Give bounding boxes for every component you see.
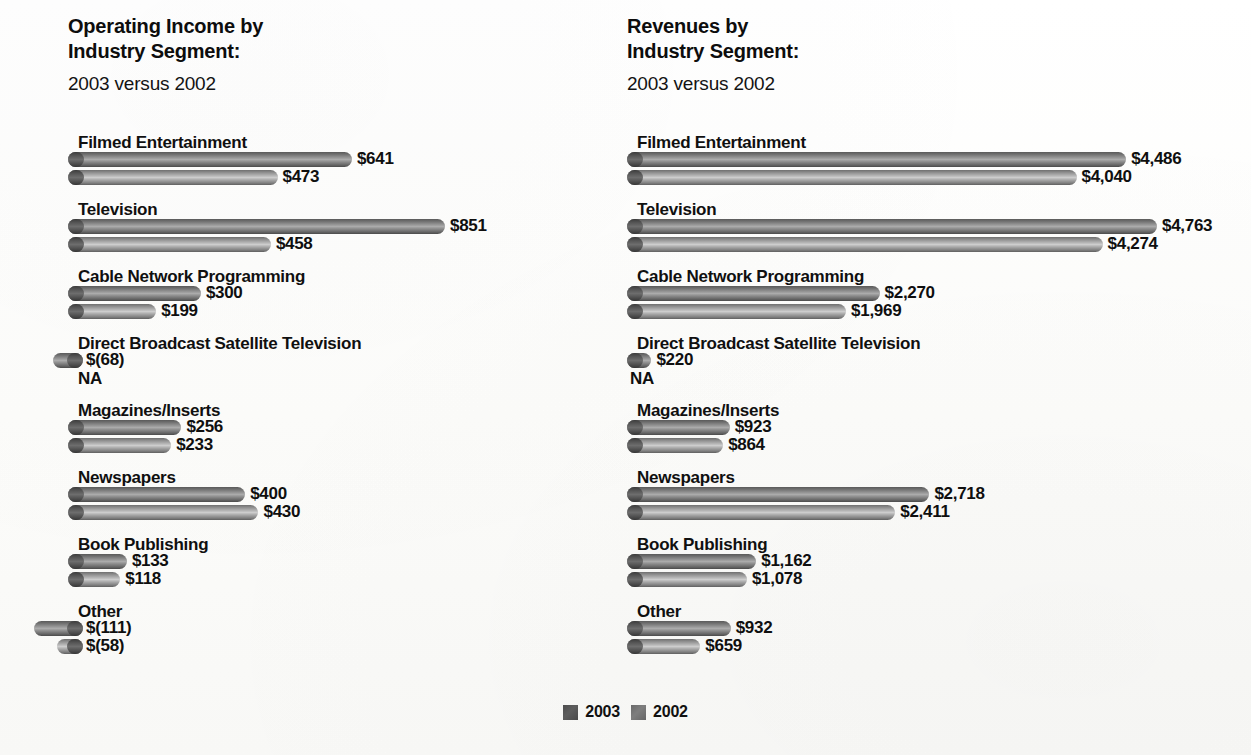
bar-value: $4,040 <box>1082 169 1132 184</box>
bar-2002[interactable] <box>627 505 895 520</box>
bar-2003[interactable] <box>68 420 181 435</box>
segment-label: Other <box>637 603 681 621</box>
segment-label: Newspapers <box>637 469 735 487</box>
bar-value: $2,718 <box>934 486 984 501</box>
bar-2002[interactable] <box>627 304 846 319</box>
bar-value: $932 <box>736 620 773 635</box>
bar-2002[interactable] <box>627 237 1103 252</box>
bar-2002[interactable] <box>627 639 700 654</box>
bar-cap <box>68 237 84 252</box>
segment-label: Television <box>637 201 716 219</box>
bar-cap <box>68 554 84 569</box>
bar-2003[interactable] <box>627 353 651 368</box>
legend-swatch-2002-icon <box>631 705 646 720</box>
legend-swatch-2003-icon <box>563 705 578 720</box>
chart-revenues: Revenues by Industry Segment: 2003 versu… <box>560 0 1251 700</box>
bar-value: $1,969 <box>851 303 901 318</box>
bar-value: $1,078 <box>752 571 802 586</box>
bar-cap <box>627 286 643 301</box>
segment-label: Cable Network Programming <box>78 268 305 286</box>
bar-2003[interactable] <box>68 219 445 234</box>
bar-2002[interactable] <box>627 438 723 453</box>
bar-value: $400 <box>250 486 287 501</box>
bar-2003[interactable] <box>627 219 1157 234</box>
bar-cap <box>627 304 643 319</box>
bar-cap <box>627 420 643 435</box>
bar-value: $199 <box>161 303 198 318</box>
chart-legend: 2003 2002 <box>0 697 1251 727</box>
bar-2003[interactable] <box>627 554 756 569</box>
bar-2003[interactable] <box>627 286 880 301</box>
bar-2002[interactable] <box>68 505 258 520</box>
bar-value: $458 <box>276 236 313 251</box>
bar-cap <box>627 219 643 234</box>
bar-2003[interactable] <box>68 286 201 301</box>
bar-cap <box>68 420 84 435</box>
bar-value: $4,763 <box>1162 218 1212 233</box>
bar-value-na: NA <box>630 371 654 386</box>
bar-cap <box>67 639 83 654</box>
bar-cap <box>68 304 84 319</box>
bar-2003[interactable] <box>68 152 352 167</box>
bar-2003[interactable] <box>34 621 83 636</box>
bar-value: $4,274 <box>1108 236 1158 251</box>
bar-2003[interactable] <box>53 353 83 368</box>
bar-value: $(58) <box>86 638 124 653</box>
bar-2003[interactable] <box>627 621 731 636</box>
bar-cap <box>68 170 84 185</box>
bar-value: $864 <box>728 437 765 452</box>
bar-value: $256 <box>186 419 223 434</box>
plot-area: Filmed Entertainment$4,486$4,040Televisi… <box>560 0 1251 700</box>
bar-value: $300 <box>206 285 243 300</box>
bar-value: $851 <box>450 218 487 233</box>
bar-2002[interactable] <box>68 572 120 587</box>
bar-value: $133 <box>132 553 169 568</box>
bar-cap <box>68 438 84 453</box>
segment-label: Filmed Entertainment <box>637 134 806 152</box>
bar-2002[interactable] <box>57 639 83 654</box>
chart-operating-income: Operating Income by Industry Segment: 20… <box>0 0 620 700</box>
bar-2002[interactable] <box>68 438 171 453</box>
bar-2003[interactable] <box>68 487 245 502</box>
bar-value: $118 <box>125 571 161 586</box>
bar-cap <box>627 353 643 368</box>
legend-item-2002[interactable]: 2002 <box>631 703 688 721</box>
legend-item-2003[interactable]: 2003 <box>563 703 620 721</box>
bar-cap <box>68 572 84 587</box>
bar-value: $659 <box>705 638 742 653</box>
bar-cap <box>627 237 643 252</box>
bar-value: $2,270 <box>885 285 935 300</box>
segment-label: Cable Network Programming <box>637 268 864 286</box>
bar-2003[interactable] <box>627 487 929 502</box>
bar-cap <box>627 152 643 167</box>
bar-cap <box>627 487 643 502</box>
bar-cap <box>627 572 643 587</box>
bar-cap <box>627 639 643 654</box>
bar-cap <box>627 170 643 185</box>
bar-cap <box>68 286 84 301</box>
bar-value-na: NA <box>78 371 102 386</box>
bar-2002[interactable] <box>68 237 271 252</box>
bar-value: $(111) <box>86 620 131 635</box>
bar-cap <box>67 621 83 636</box>
bar-2002[interactable] <box>68 170 278 185</box>
bar-cap <box>627 505 643 520</box>
bar-value: $2,411 <box>900 504 949 519</box>
bar-2002[interactable] <box>68 304 156 319</box>
bar-value: $1,162 <box>761 553 811 568</box>
bar-value: $923 <box>735 419 772 434</box>
legend-label: 2003 <box>585 703 620 721</box>
bar-2003[interactable] <box>627 152 1126 167</box>
bar-2003[interactable] <box>68 554 127 569</box>
bar-cap <box>68 219 84 234</box>
bar-2002[interactable] <box>627 572 747 587</box>
bar-value: $473 <box>283 169 320 184</box>
legend-label: 2002 <box>653 703 688 721</box>
bar-cap <box>627 438 643 453</box>
plot-area: Filmed Entertainment$641$473Television$8… <box>0 0 620 700</box>
bar-value: $(68) <box>86 352 124 367</box>
bar-2003[interactable] <box>627 420 730 435</box>
bar-value: $4,486 <box>1131 151 1181 166</box>
bar-2002[interactable] <box>627 170 1077 185</box>
bar-cap <box>68 152 84 167</box>
